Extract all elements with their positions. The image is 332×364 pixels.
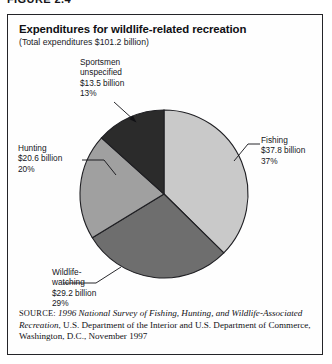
callout-wildlife-name2: watching (52, 277, 96, 287)
callout-wildlife-name1: Wildlife- (52, 267, 96, 277)
callout-sportsmen-unspecified: Sportsmen unspecified $13.5 billion 13% (80, 57, 124, 99)
callout-hunting-percent: 20% (18, 164, 62, 174)
source-publisher: , U.S. Department of the Interior and U.… (19, 320, 311, 342)
callout-sportsmen-percent: 13% (80, 88, 124, 98)
callout-sportsmen-name2: unspecified (80, 67, 124, 77)
figure-frame: Expenditures for wildlife-related recrea… (7, 14, 323, 355)
figure-caption: FIGURE 2.4 (7, 0, 71, 4)
callout-fishing-percent: 37% (261, 156, 305, 166)
source-note: SOURCE: 1996 National Survey of Fishing,… (19, 308, 313, 343)
callout-hunting-name: Hunting (18, 143, 62, 153)
callout-fishing-amount: $37.8 billion (261, 145, 305, 155)
pie-chart: Sportsmen unspecified $13.5 billion 13% … (8, 15, 322, 301)
source-label: SOURCE: (19, 309, 56, 318)
callout-fishing: Fishing $37.8 billion 37% (261, 135, 305, 166)
callout-wildlife-watching: Wildlife- watching $29.2 billion 29% (52, 267, 96, 309)
callout-hunting-amount: $20.6 billion (18, 153, 62, 163)
callout-fishing-name: Fishing (261, 135, 305, 145)
callout-sportsmen-amount: $13.5 billion (80, 78, 124, 88)
callout-sportsmen-name1: Sportsmen (80, 57, 124, 67)
callout-wildlife-amount: $29.2 billion (52, 288, 96, 298)
callout-hunting: Hunting $20.6 billion 20% (18, 143, 62, 174)
